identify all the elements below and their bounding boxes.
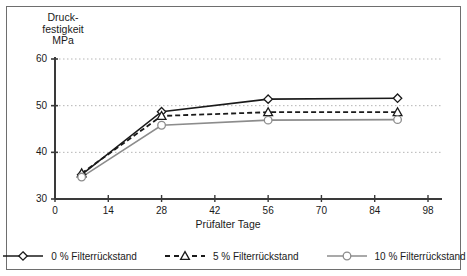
gridlines	[55, 59, 442, 199]
legend-entry-1[interactable]: 5 % Filterrückstand	[163, 249, 299, 263]
legend-label-1: 5 % Filterrückstand	[213, 251, 299, 262]
legend-label-0: 0 % Filterrückstand	[51, 251, 137, 262]
data-point-diamond	[393, 94, 401, 102]
legend-swatch-diamond	[1, 249, 45, 263]
series-line-2	[82, 120, 398, 177]
series-lines	[82, 98, 398, 177]
x-tick-label-42: 42	[202, 205, 228, 216]
series-line-0	[82, 98, 398, 175]
y-tick-label-60: 60	[23, 53, 47, 64]
data-point-circle	[264, 116, 272, 124]
x-tick-label-70: 70	[308, 205, 334, 216]
legend-label-2: 10 % Filterrückstand	[375, 251, 466, 262]
legend-entry-2[interactable]: 10 % Filterrückstand	[325, 249, 466, 263]
x-tick-label-98: 98	[415, 205, 441, 216]
legend-swatch-triangle	[163, 249, 207, 263]
plot-area	[0, 0, 467, 276]
x-tick-label-84: 84	[362, 205, 388, 216]
x-tick-label-14: 14	[95, 205, 121, 216]
x-tick-label-28: 28	[149, 205, 175, 216]
data-point-circle	[394, 116, 402, 124]
chart-figure: Druck- festigkeit MPa 30405060 014284256…	[0, 0, 467, 276]
y-tick-label-40: 40	[23, 146, 47, 157]
x-tick-label-0: 0	[42, 205, 68, 216]
axis-lines	[55, 57, 442, 199]
data-point-circle	[78, 173, 86, 181]
x-tick-label-56: 56	[255, 205, 281, 216]
x-axis-title: Prüfalter Tage	[168, 219, 288, 231]
data-point-circle	[158, 121, 166, 129]
series-markers	[77, 94, 402, 181]
legend-entry-0[interactable]: 0 % Filterrückstand	[1, 249, 137, 263]
data-point-diamond	[264, 95, 272, 103]
axis-ticks	[51, 59, 428, 202]
chart-legend: 0 % Filterrückstand5 % Filterrückstand10…	[10, 244, 457, 268]
y-tick-label-30: 30	[23, 193, 47, 204]
y-tick-label-50: 50	[23, 100, 47, 111]
legend-swatch-circle	[325, 249, 369, 263]
